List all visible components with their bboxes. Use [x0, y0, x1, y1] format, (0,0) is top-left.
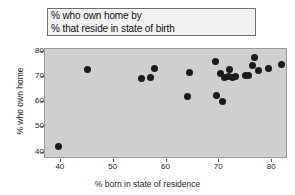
data-point	[226, 66, 233, 73]
x-axis-tick-mark	[271, 159, 272, 162]
x-axis-tick-mark	[60, 159, 61, 162]
data-point	[265, 65, 272, 72]
data-point	[184, 93, 191, 100]
plot-area	[44, 48, 287, 158]
x-axis-tick-label: 60	[156, 163, 176, 171]
data-point	[55, 143, 62, 150]
x-axis-tick-mark	[218, 159, 219, 162]
data-point	[278, 61, 285, 68]
x-axis-tick-mark	[113, 159, 114, 162]
y-axis-tick-mark	[41, 152, 44, 153]
data-point	[151, 65, 158, 72]
x-axis-title: % born in state of residence	[0, 179, 295, 189]
y-axis-tick-mark	[41, 76, 44, 77]
data-point	[255, 67, 262, 74]
data-point	[213, 92, 220, 99]
data-point	[245, 72, 252, 79]
chart-title-box: % who own home by % that reside in state…	[47, 8, 256, 36]
x-axis-tick-label: 80	[261, 163, 281, 171]
y-axis-tick-mark	[41, 101, 44, 102]
data-point	[212, 58, 219, 65]
chart-title-line-1: % who own home by	[51, 10, 255, 23]
x-axis-ticks: 4050607080	[0, 163, 295, 175]
y-axis-tick-mark	[41, 126, 44, 127]
scatter-plot-figure: % who own home by % that reside in state…	[0, 0, 295, 195]
data-point	[232, 73, 239, 80]
data-point	[138, 75, 145, 82]
x-axis-tick-label: 40	[50, 163, 70, 171]
x-axis-tick-label: 70	[208, 163, 228, 171]
data-point	[84, 66, 91, 73]
y-axis-title: % who own home	[15, 46, 25, 156]
y-axis-tick-mark	[41, 51, 44, 52]
data-point	[186, 69, 193, 76]
data-point	[251, 54, 258, 61]
x-axis-tick-mark	[166, 159, 167, 162]
data-point	[147, 74, 154, 81]
chart-title-line-2: % that reside in state of birth	[51, 23, 255, 36]
data-point	[219, 98, 226, 105]
x-axis-tick-label: 50	[103, 163, 123, 171]
